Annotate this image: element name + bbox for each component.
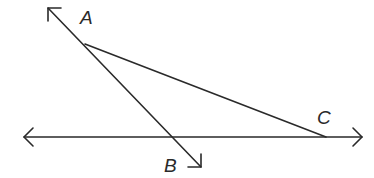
label-b: B bbox=[164, 155, 177, 176]
geometry-diagram: A C B bbox=[0, 0, 374, 178]
line-ab bbox=[48, 8, 201, 167]
line-ab-stroke bbox=[48, 8, 201, 167]
label-a: A bbox=[79, 7, 93, 28]
label-c: C bbox=[317, 107, 331, 128]
segment-ac bbox=[85, 44, 326, 137]
